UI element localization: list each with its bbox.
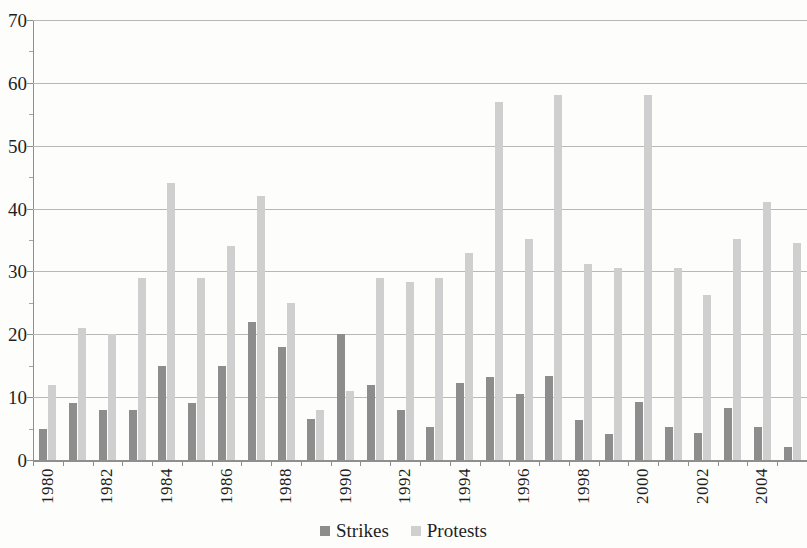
bar-group-1995 [480, 20, 510, 460]
bar-chart: 010203040506070 198019821984198619881990… [0, 0, 807, 548]
x-tick-2 [93, 460, 94, 466]
bar-protests-1989 [316, 410, 324, 460]
bar-strikes-1990 [337, 334, 345, 460]
x-tick-label-1990: 1990 [337, 468, 354, 504]
bar-group-1993 [420, 20, 450, 460]
x-tick-13 [420, 460, 421, 466]
legend-item-protests: Protests [411, 521, 487, 540]
bar-group-1989 [301, 20, 331, 460]
x-tick-21 [658, 460, 659, 466]
bar-strikes-1992 [397, 410, 405, 460]
x-tick-1 [63, 460, 64, 466]
y-tick-label-50: 50 [0, 137, 27, 156]
bar-group-1991 [360, 20, 390, 460]
x-tick-11 [360, 460, 361, 466]
y-tick-label-70: 70 [0, 11, 27, 30]
bar-protests-1993 [435, 278, 443, 460]
x-tick-label-2004: 2004 [753, 468, 770, 504]
x-axis-tick-labels: 1980198219841986198819901992199419961998… [33, 468, 807, 528]
x-tick-19 [599, 460, 600, 466]
bar-strikes-1995 [486, 377, 494, 460]
bar-group-1981 [63, 20, 93, 460]
bar-group-1990 [331, 20, 361, 460]
x-tick-9 [301, 460, 302, 466]
x-tick-8 [271, 460, 272, 466]
bar-strikes-1991 [367, 385, 375, 460]
bar-protests-1981 [78, 328, 86, 460]
x-tick-0 [33, 460, 34, 466]
x-tick-17 [539, 460, 540, 466]
bar-protests-2003 [733, 239, 741, 460]
bar-strikes-1988 [278, 347, 286, 460]
protests-swatch-icon [411, 526, 421, 536]
x-tick-label-1992: 1992 [396, 468, 413, 504]
bar-group-1988 [271, 20, 301, 460]
bar-strikes-1984 [158, 366, 166, 460]
bar-protests-2002 [703, 295, 711, 460]
strikes-swatch-icon [320, 526, 330, 536]
bar-protests-1997 [554, 95, 562, 460]
bar-strikes-1983 [129, 410, 137, 460]
bar-strikes-2002 [694, 433, 702, 460]
legend-label-protests: Protests [427, 521, 487, 540]
bar-group-1985 [182, 20, 212, 460]
bar-protests-1998 [584, 264, 592, 460]
bar-strikes-2005 [784, 447, 792, 460]
bar-protests-1991 [376, 278, 384, 460]
bar-group-1980 [33, 20, 63, 460]
x-tick-label-1994: 1994 [456, 468, 473, 504]
bar-group-2004 [747, 20, 777, 460]
bar-group-1987 [241, 20, 271, 460]
bar-group-1997 [539, 20, 569, 460]
bar-group-2002 [688, 20, 718, 460]
x-tick-4 [152, 460, 153, 466]
x-tick-10 [331, 460, 332, 466]
y-tick-label-20: 20 [0, 325, 27, 344]
legend-item-strikes: Strikes [320, 521, 389, 540]
x-tick-22 [688, 460, 689, 466]
bar-strikes-1989 [307, 419, 315, 460]
bar-strikes-2003 [724, 408, 732, 460]
bar-protests-1986 [227, 246, 235, 460]
bar-strikes-1986 [218, 366, 226, 460]
bar-protests-2000 [644, 95, 652, 460]
x-tick-16 [509, 460, 510, 466]
bar-strikes-1981 [69, 403, 77, 460]
x-tick-15 [480, 460, 481, 466]
bar-protests-1996 [525, 239, 533, 460]
bar-protests-1982 [108, 334, 116, 460]
bar-group-1999 [599, 20, 629, 460]
bar-protests-1985 [197, 278, 205, 460]
bar-protests-2004 [763, 202, 771, 460]
x-tick-6 [212, 460, 213, 466]
bar-strikes-1997 [545, 376, 553, 460]
x-tick-label-1998: 1998 [575, 468, 592, 504]
x-tick-3 [122, 460, 123, 466]
bar-strikes-1985 [188, 403, 196, 460]
bar-group-1994 [450, 20, 480, 460]
bar-protests-1999 [614, 268, 622, 460]
x-tick-label-1986: 1986 [218, 468, 235, 504]
bar-strikes-1999 [605, 434, 613, 460]
bar-strikes-1980 [39, 429, 47, 460]
bar-protests-1992 [406, 282, 414, 460]
x-tick-25 [777, 460, 778, 466]
bar-group-1984 [152, 20, 182, 460]
legend-label-strikes: Strikes [336, 521, 389, 540]
y-tick-label-0: 0 [0, 451, 27, 470]
bar-group-2001 [658, 20, 688, 460]
x-tick-20 [628, 460, 629, 466]
bar-strikes-1982 [99, 410, 107, 460]
y-tick-label-10: 10 [0, 388, 27, 407]
x-tick-12 [390, 460, 391, 466]
x-tick-14 [450, 460, 451, 466]
y-tick-label-40: 40 [0, 200, 27, 219]
x-axis-line [33, 460, 807, 462]
y-tick-label-60: 60 [0, 74, 27, 93]
x-tick-label-2000: 2000 [634, 468, 651, 504]
bar-group-1998 [569, 20, 599, 460]
x-tick-label-2002: 2002 [694, 468, 711, 504]
bar-protests-1980 [48, 385, 56, 460]
y-tick-label-30: 30 [0, 262, 27, 281]
bar-strikes-1994 [456, 383, 464, 460]
